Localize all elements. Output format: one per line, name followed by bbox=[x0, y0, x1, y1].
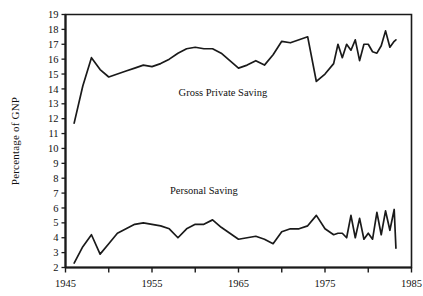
y-tick-label: 4 bbox=[53, 232, 59, 243]
y-tick-label: 5 bbox=[53, 217, 58, 228]
x-tick-label: 1975 bbox=[315, 278, 336, 289]
y-tick-label: 2 bbox=[53, 262, 58, 273]
y-tick-label: 7 bbox=[53, 188, 58, 199]
x-tick-label: 1965 bbox=[228, 278, 249, 289]
y-tick-label: 3 bbox=[53, 247, 58, 258]
y-axis-title: Percentage of GNP bbox=[9, 97, 21, 185]
y-tick-label: 6 bbox=[53, 203, 58, 214]
y-tick-label: 11 bbox=[48, 128, 58, 139]
y-tick-label: 13 bbox=[48, 98, 59, 109]
y-tick-label: 10 bbox=[48, 143, 59, 154]
y-tick-label: 14 bbox=[48, 84, 59, 95]
line-chart-canvas: 2345678910111213141516171819 19451955196… bbox=[0, 0, 423, 296]
y-tick-label: 15 bbox=[48, 69, 59, 80]
y-tick-label: 16 bbox=[48, 54, 59, 65]
personal-saving-label: Personal Saving bbox=[170, 185, 239, 196]
x-tick-label: 1985 bbox=[401, 278, 422, 289]
y-axis-title-text: Percentage of GNP bbox=[9, 97, 21, 185]
gross-private-saving-label: Gross Private Saving bbox=[179, 87, 268, 98]
y-tick-label: 17 bbox=[48, 39, 59, 50]
y-tick-label: 12 bbox=[48, 113, 59, 124]
chart-figure: 2345678910111213141516171819 19451955196… bbox=[0, 0, 423, 296]
x-tick-label: 1955 bbox=[142, 278, 163, 289]
y-tick-label: 19 bbox=[48, 9, 59, 20]
y-tick-label: 8 bbox=[53, 173, 58, 184]
y-tick-label: 18 bbox=[48, 24, 59, 35]
x-tick-label: 1945 bbox=[55, 278, 76, 289]
y-tick-label: 9 bbox=[53, 158, 58, 169]
